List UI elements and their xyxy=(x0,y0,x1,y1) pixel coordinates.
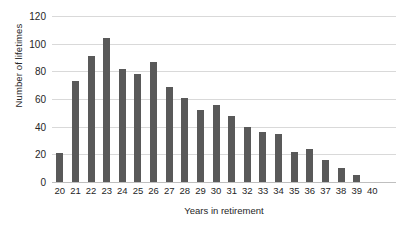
bar-25 xyxy=(134,74,141,182)
y-axis-tick-label: 100 xyxy=(6,38,46,49)
bar-slot xyxy=(224,10,240,182)
x-axis-tick-label: 23 xyxy=(99,185,115,196)
bar-22 xyxy=(88,56,95,182)
x-axis-tick-label: 40 xyxy=(365,185,381,196)
bar-27 xyxy=(166,87,173,182)
bar-slot xyxy=(177,10,193,182)
bar-slot xyxy=(146,10,162,182)
x-axis-tick-label: 29 xyxy=(193,185,209,196)
bar-35 xyxy=(291,152,298,182)
y-axis-tick-label: 120 xyxy=(6,11,46,22)
x-axis-tick-label: 36 xyxy=(302,185,318,196)
x-axis-tick-label: 28 xyxy=(177,185,193,196)
y-axis-tick-label: 60 xyxy=(6,94,46,105)
bar-32 xyxy=(244,127,251,182)
bar-39 xyxy=(353,175,360,182)
x-axis-tick-label: 39 xyxy=(349,185,365,196)
bar-23 xyxy=(103,38,110,182)
bar-31 xyxy=(228,116,235,182)
bar-slot xyxy=(115,10,131,182)
y-axis-tick-label: 0 xyxy=(6,177,46,188)
bar-28 xyxy=(181,98,188,182)
bar-slot xyxy=(68,10,84,182)
y-axis-tick-label: 40 xyxy=(6,121,46,132)
bar-slot xyxy=(365,10,381,182)
bar-slot xyxy=(208,10,224,182)
x-axis-tick-label: 37 xyxy=(318,185,334,196)
x-axis-tick-label: 20 xyxy=(52,185,68,196)
bar-slot xyxy=(83,10,99,182)
bar-21 xyxy=(72,81,79,182)
bar-slot xyxy=(52,10,68,182)
bar-slot xyxy=(240,10,256,182)
x-axis-tick-label: 35 xyxy=(286,185,302,196)
x-axis-tick-label: 38 xyxy=(333,185,349,196)
x-axis-tick-label: 31 xyxy=(224,185,240,196)
plot-area xyxy=(52,10,396,182)
bar-slot xyxy=(271,10,287,182)
bar-24 xyxy=(119,69,126,182)
bar-38 xyxy=(338,168,345,182)
x-axis-tick-label: 27 xyxy=(161,185,177,196)
x-axis-tick-label: 21 xyxy=(68,185,84,196)
x-axis-tick-label: 26 xyxy=(146,185,162,196)
bar-slot xyxy=(99,10,115,182)
bar-slot xyxy=(318,10,334,182)
bar-20 xyxy=(56,153,63,182)
x-axis-title: Years in retirement xyxy=(52,205,396,216)
bar-30 xyxy=(213,105,220,182)
bar-26 xyxy=(150,62,157,182)
bar-slot xyxy=(193,10,209,182)
bar-29 xyxy=(197,110,204,182)
bar-slot xyxy=(333,10,349,182)
bar-slot xyxy=(255,10,271,182)
bar-chart: Number of lifetimes 020406080100120 2021… xyxy=(0,0,404,226)
y-axis-tick-label: 80 xyxy=(6,66,46,77)
bar-34 xyxy=(275,134,282,182)
bar-series xyxy=(52,10,396,182)
y-axis-tick-label: 20 xyxy=(6,149,46,160)
bar-36 xyxy=(306,149,313,182)
bar-37 xyxy=(322,160,329,182)
x-axis-tick-label: 22 xyxy=(83,185,99,196)
gridline-0 xyxy=(52,182,396,183)
x-axis-tick-label: 34 xyxy=(271,185,287,196)
x-axis-tick-label: 24 xyxy=(115,185,131,196)
x-axis-ticks: 2021222324252627282930313233343536373839… xyxy=(52,185,396,196)
bar-slot xyxy=(302,10,318,182)
bar-slot xyxy=(130,10,146,182)
x-axis-tick-label: 30 xyxy=(208,185,224,196)
bar-slot xyxy=(161,10,177,182)
x-axis-tick-label: 33 xyxy=(255,185,271,196)
x-axis-tick-label: 32 xyxy=(240,185,256,196)
bar-slot xyxy=(349,10,365,182)
bar-33 xyxy=(259,132,266,182)
x-axis-tick-label: 25 xyxy=(130,185,146,196)
bar-slot xyxy=(286,10,302,182)
